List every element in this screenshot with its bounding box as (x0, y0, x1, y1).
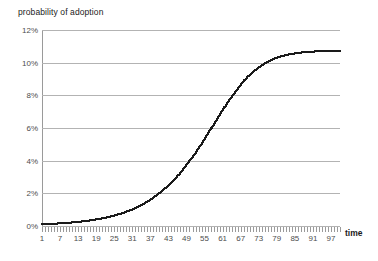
x-axis-tick-mark (108, 227, 109, 232)
gridline (42, 193, 340, 194)
x-axis-tick-mark (214, 227, 215, 232)
x-axis-tick-mark (259, 227, 260, 232)
x-axis-tick-mark (289, 227, 290, 232)
x-axis-tick-mark (283, 227, 284, 232)
x-axis-tick-mark (141, 227, 142, 232)
x-axis-tick-mark (105, 227, 106, 232)
x-axis-tick-mark (159, 227, 160, 232)
x-axis-tick-label: 25 (110, 234, 119, 243)
x-axis-tick-mark (220, 227, 221, 232)
x-axis-tick-mark (238, 227, 239, 232)
x-axis-tick-mark (81, 227, 82, 232)
x-axis-tick-mark (247, 227, 248, 232)
x-axis-tick-mark (337, 227, 338, 232)
x-axis-tick-mark (307, 227, 308, 232)
x-axis-tick-mark (331, 227, 332, 232)
x-axis-tick-mark (244, 227, 245, 232)
x-axis-tick-mark (42, 227, 43, 232)
plot-area (42, 30, 340, 226)
x-axis-tick-label: 43 (164, 234, 173, 243)
x-axis-tick-mark (325, 227, 326, 232)
x-axis-tick-mark (193, 227, 194, 232)
x-axis-tick-mark (316, 227, 317, 232)
x-axis-tick-mark (129, 227, 130, 232)
x-axis-tick-mark (102, 227, 103, 232)
x-axis-tick-mark (69, 227, 70, 232)
x-axis-tick-mark (298, 227, 299, 232)
x-axis-tick-mark (328, 227, 329, 232)
x-axis-tick-mark (189, 227, 190, 232)
x-axis-tick-mark (262, 227, 263, 232)
x-axis-tick-mark (223, 227, 224, 232)
x-axis-tick-mark (313, 227, 314, 232)
x-axis-tick-mark (75, 227, 76, 232)
x-axis-tick-mark (156, 227, 157, 232)
y-axis-tick-label: 10% (4, 58, 38, 67)
x-axis-tick-mark (138, 227, 139, 232)
x-axis-tick-mark (292, 227, 293, 232)
y-axis-tick-label: 4% (4, 156, 38, 165)
x-axis-tick-mark (45, 227, 46, 232)
x-axis-tick-mark (232, 227, 233, 232)
x-axis-tick-mark (174, 227, 175, 232)
x-axis-tick-mark (301, 227, 302, 232)
x-axis-tick-mark (66, 227, 67, 232)
x-axis-tick-mark (72, 227, 73, 232)
x-axis-title: time (345, 228, 362, 238)
x-axis-tick-mark (144, 227, 145, 232)
x-axis-tick-mark (57, 227, 58, 232)
x-axis-tick-mark (51, 227, 52, 232)
x-axis-tick-mark (183, 227, 184, 232)
x-axis-tick-mark (265, 227, 266, 232)
x-axis-tick-mark (63, 227, 64, 232)
x-axis-tick-mark (286, 227, 287, 232)
x-axis-tick-mark (253, 227, 254, 232)
x-axis-tick-mark (96, 227, 97, 232)
x-axis-tick-mark (93, 227, 94, 232)
x-axis-tick-mark (162, 227, 163, 232)
x-axis-tick-mark (202, 227, 203, 232)
x-axis-tick-mark (126, 227, 127, 232)
x-axis-tick-mark (150, 227, 151, 232)
x-axis-tick-mark (334, 227, 335, 232)
x-axis-tick-mark (48, 227, 49, 232)
x-axis-tick-mark (274, 227, 275, 232)
x-axis-tick-mark (235, 227, 236, 232)
x-axis-tick-label: 73 (254, 234, 263, 243)
y-axis-tick-label: 12% (4, 26, 38, 35)
x-axis-tick-label: 19 (92, 234, 101, 243)
x-axis-tick-label: 49 (182, 234, 191, 243)
x-axis-tick-mark (186, 227, 187, 232)
x-axis-tick-mark (120, 227, 121, 232)
x-axis-tick-mark (114, 227, 115, 232)
x-axis-tick-label: 79 (272, 234, 281, 243)
x-axis-tick-mark (205, 227, 206, 232)
y-axis-tick-labels: 0%2%4%6%8%10%12% (0, 30, 38, 227)
x-axis-tick-label: 7 (58, 234, 62, 243)
x-axis-tick-mark (171, 227, 172, 232)
adoption-probability-chart: probability of adoption 0%2%4%6%8%10%12%… (0, 0, 378, 261)
x-axis-tick-mark (256, 227, 257, 232)
gridline (42, 63, 340, 64)
x-axis-tick-mark (229, 227, 230, 232)
gridline (42, 128, 340, 129)
x-axis-tick-mark (180, 227, 181, 232)
x-axis-tick-mark (208, 227, 209, 232)
x-axis-tick-mark (295, 227, 296, 232)
gridline (42, 95, 340, 96)
x-axis-tick-label: 55 (200, 234, 209, 243)
x-axis-tick-mark (99, 227, 100, 232)
x-axis-tick-mark (271, 227, 272, 232)
x-axis-tick-label: 13 (74, 234, 83, 243)
x-axis-tick-label: 31 (128, 234, 137, 243)
x-axis-tick-mark (117, 227, 118, 232)
x-axis-tick-label: 1 (40, 234, 44, 243)
y-axis-title: probability of adoption (18, 7, 103, 17)
x-axis-tick-label: 97 (327, 234, 336, 243)
x-axis-tick-mark (165, 227, 166, 232)
data-point-marker (339, 50, 341, 52)
y-axis-tick-label: 0% (4, 222, 38, 231)
x-axis-tick-mark (277, 227, 278, 232)
x-axis-tick-mark (90, 227, 91, 232)
x-axis-tick-mark (217, 227, 218, 232)
